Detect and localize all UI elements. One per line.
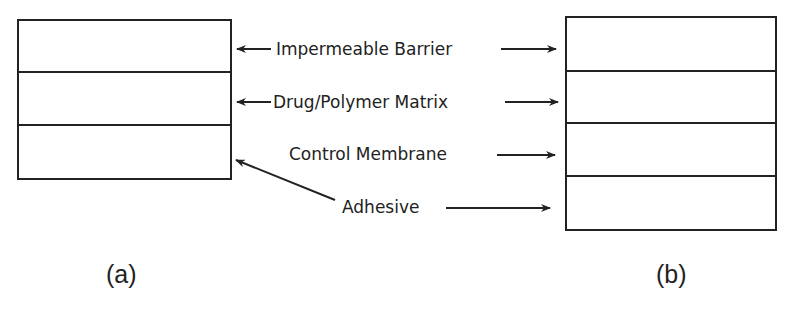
label-adhesive: Adhesive xyxy=(236,160,550,217)
arrow-diagonal-icon xyxy=(236,160,335,200)
label-text: Drug/Polymer Matrix xyxy=(273,92,448,112)
panel-b xyxy=(566,17,776,230)
label-text: Control Membrane xyxy=(289,144,447,164)
label-impermeable-barrier: Impermeable Barrier xyxy=(237,39,556,59)
panel-a xyxy=(18,20,231,179)
label-text: Adhesive xyxy=(342,197,419,217)
caption-a: (a) xyxy=(106,260,137,288)
transdermal-patch-diagram: Impermeable Barrier Drug/Polymer Matrix … xyxy=(0,0,796,316)
caption-b: (b) xyxy=(656,260,687,288)
panel-a-outline xyxy=(18,20,231,179)
label-drug-polymer-matrix: Drug/Polymer Matrix xyxy=(237,92,558,112)
label-control-membrane: Control Membrane xyxy=(289,144,555,164)
label-text: Impermeable Barrier xyxy=(276,39,452,59)
